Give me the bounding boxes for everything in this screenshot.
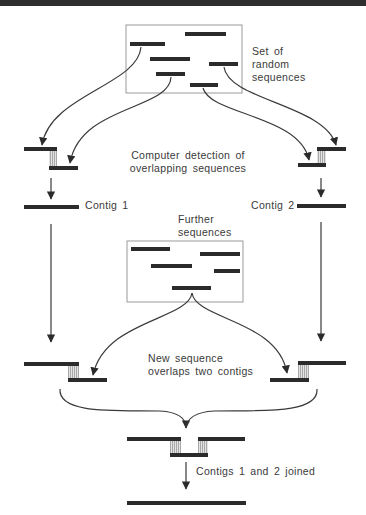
overlap-left bbox=[24, 147, 78, 170]
label-line: random bbox=[252, 58, 306, 71]
joined-label: Contigs 1 and 2 joined bbox=[196, 465, 315, 478]
further-sequences-label: Further sequences bbox=[178, 213, 232, 239]
sequence-fragment bbox=[190, 83, 218, 87]
sequence-fragment bbox=[172, 286, 211, 290]
further-sequences-box bbox=[127, 241, 243, 302]
sequence-assembly-diagram bbox=[0, 0, 366, 515]
label-line: Computer detection of bbox=[128, 149, 248, 162]
contig-1-label: Contig 1 bbox=[85, 199, 129, 212]
joined-overlap bbox=[127, 437, 245, 457]
contig-2-label: Contig 2 bbox=[251, 199, 295, 212]
sequence-fragment bbox=[130, 42, 165, 46]
sequence-fragment bbox=[131, 247, 170, 251]
label-line: overlapping sequences bbox=[128, 162, 248, 175]
merge-brace bbox=[60, 389, 317, 428]
label-line: sequences bbox=[252, 71, 306, 84]
detection-label: Computer detection of overlapping sequen… bbox=[128, 149, 248, 175]
top-border-band bbox=[0, 0, 366, 6]
sequence-fragment bbox=[209, 62, 238, 66]
new-sequence-label: New sequence overlaps two contigs bbox=[148, 352, 253, 378]
random-sequences-box bbox=[126, 25, 242, 93]
sequence-fragment bbox=[185, 32, 226, 36]
sequence-fragment bbox=[156, 72, 185, 76]
random-set-label: Set of random sequences bbox=[252, 45, 306, 84]
sequence-fragment bbox=[214, 269, 240, 273]
label-line: Further bbox=[178, 213, 232, 226]
sequence-fragment bbox=[150, 57, 190, 61]
overlap-lower-left bbox=[24, 362, 107, 382]
contig-2-bar bbox=[297, 204, 346, 208]
sequence-fragment bbox=[200, 252, 240, 256]
contig-1-bar bbox=[24, 205, 79, 209]
label-line: Set of bbox=[252, 45, 306, 58]
sequence-fragment bbox=[151, 264, 192, 268]
label-line: sequences bbox=[178, 226, 232, 239]
overlap-lower-right bbox=[270, 361, 346, 382]
final-contig-bar bbox=[127, 501, 246, 505]
label-line: overlaps two contigs bbox=[148, 365, 253, 378]
label-line: New sequence bbox=[148, 352, 253, 365]
